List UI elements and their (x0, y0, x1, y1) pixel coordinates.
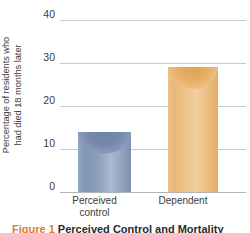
x-axis-label-perceived-control-line-2: control (48, 207, 141, 219)
x-axis-label-perceived-control: Perceived control (48, 195, 141, 219)
y-tick-label-20: 20 (43, 94, 55, 106)
y-tick-label-40: 40 (43, 8, 55, 20)
figure-container: Percentage of residents who had died 18 … (0, 0, 250, 233)
figure-caption: Figure 1 Perceived Control and Mortality (12, 223, 250, 233)
x-axis-label-dependent: Dependent (143, 195, 223, 207)
y-axis-title-line-1: Percentage of residents who (1, 0, 13, 190)
gridline-40: 40 (60, 20, 246, 21)
gridline-0-baseline: 0 (60, 192, 246, 193)
figure-caption-text: Perceived Control and Mortality (58, 223, 224, 233)
y-axis-title-line-2: had died 18 months later (13, 0, 25, 190)
bar-dependent[interactable] (168, 67, 218, 192)
x-axis-label-perceived-control-line-1: Perceived (48, 195, 141, 207)
y-axis-title: Percentage of residents who had died 18 … (1, 0, 35, 190)
y-tick-label-10: 10 (43, 137, 55, 149)
gridline-30: 30 (60, 63, 246, 64)
y-tick-label-30: 30 (43, 51, 55, 63)
y-tick-label-0: 0 (49, 180, 55, 192)
plot-area: 40 30 20 10 0 (60, 20, 246, 192)
gridline-20: 20 (60, 106, 246, 107)
x-axis-label-dependent-line-1: Dependent (143, 195, 223, 207)
bar-perceived-control[interactable] (78, 132, 131, 192)
figure-caption-number: Figure 1 (12, 223, 55, 233)
